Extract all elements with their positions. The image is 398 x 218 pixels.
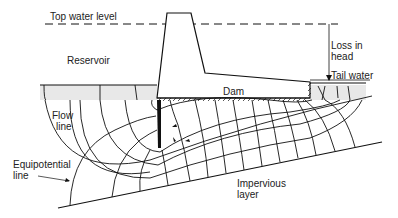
tail-water-label: Tail water xyxy=(331,70,373,81)
equipotential-leader xyxy=(38,176,69,181)
impervious-layer-label-line2: layer xyxy=(237,189,259,200)
equipotential-line-label-line2: line xyxy=(13,170,29,181)
loss-in-head-label-line2: head xyxy=(331,51,353,62)
flow-line-label-line2: line xyxy=(56,121,72,132)
equipotential-lines xyxy=(44,85,355,205)
impervious-layer-line xyxy=(58,142,382,208)
loss-in-head-label-line1: Loss in xyxy=(331,40,363,51)
cutoff-wall xyxy=(157,100,161,148)
reservoir-bed-fill xyxy=(40,85,157,100)
dam-label: Dam xyxy=(223,86,244,97)
reservoir-label: Reservoir xyxy=(67,55,110,66)
impervious-layer-label-line1: Impervious xyxy=(237,178,286,189)
top-water-level-label: Top water level xyxy=(50,11,117,22)
flow-line-label-line1: Flow xyxy=(52,110,73,121)
flow-net-drawing xyxy=(0,0,398,218)
flow-net-diagram: Top water level Reservoir Loss in head T… xyxy=(0,0,398,218)
equipotential-line-label-line1: Equipotential xyxy=(13,159,71,170)
flow-lines xyxy=(45,96,372,178)
